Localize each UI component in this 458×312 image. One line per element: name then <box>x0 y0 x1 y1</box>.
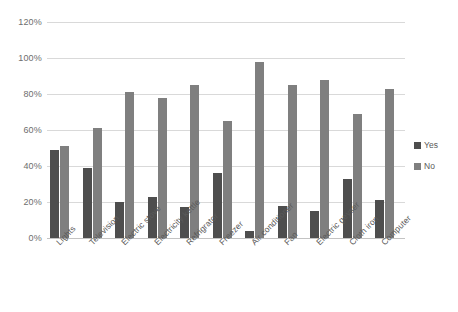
legend-swatch-icon <box>414 163 421 170</box>
bar-group <box>242 22 275 238</box>
bar-yes[interactable] <box>310 211 319 238</box>
y-axis-tick-label: 80% <box>23 89 42 99</box>
legend-label: No <box>424 161 435 171</box>
bar-group <box>210 22 243 238</box>
legend-item-no[interactable]: No <box>414 161 458 171</box>
bar-no[interactable] <box>93 128 102 238</box>
y-axis-tick-label: 60% <box>23 125 42 135</box>
bar-yes[interactable] <box>50 150 59 238</box>
bar-group <box>47 22 80 238</box>
chart-legend: YesNo <box>414 140 458 182</box>
bar-group <box>80 22 113 238</box>
legend-item-yes[interactable]: Yes <box>414 140 458 150</box>
y-axis-tick-label: 40% <box>23 161 42 171</box>
bar-group <box>112 22 145 238</box>
bar-no[interactable] <box>60 146 69 238</box>
bar-yes[interactable] <box>83 168 92 238</box>
legend-swatch-icon <box>414 142 421 149</box>
legend-label: Yes <box>424 140 438 150</box>
bar-yes[interactable] <box>213 173 222 238</box>
y-axis-tick-label: 120% <box>18 17 42 27</box>
bar-no[interactable] <box>353 114 362 238</box>
bar-no[interactable] <box>158 98 167 238</box>
bar-group <box>372 22 405 238</box>
y-axis-tick-label: 100% <box>18 53 42 63</box>
y-axis-tick-label: 20% <box>23 197 42 207</box>
bar-no[interactable] <box>125 92 134 238</box>
y-axis: 0%20%40%60%80%100%120% <box>0 22 42 238</box>
bar-no[interactable] <box>288 85 297 238</box>
x-axis-labels: LightsTelevisionElectric stoveElectricit… <box>47 240 405 312</box>
bar-group <box>307 22 340 238</box>
y-axis-tick-label: 0% <box>29 233 42 243</box>
bar-chart: 0%20%40%60%80%100%120% LightsTelevisionE… <box>0 0 458 312</box>
bar-group <box>145 22 178 238</box>
bar-no[interactable] <box>255 62 264 238</box>
bar-no[interactable] <box>385 89 394 238</box>
bar-no[interactable] <box>320 80 329 238</box>
bar-no[interactable] <box>223 121 232 238</box>
bar-no[interactable] <box>190 85 199 238</box>
